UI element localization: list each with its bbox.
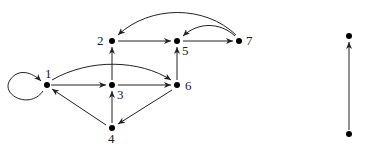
edge-7-2 [118, 13, 236, 36]
node-label-5: 5 [182, 43, 189, 58]
edge-6-4 [118, 90, 172, 124]
node-2 [109, 38, 115, 44]
node-5 [174, 38, 180, 44]
node-label-3: 3 [117, 87, 124, 102]
edge-1-1 [8, 73, 43, 100]
node-label-2: 2 [97, 33, 104, 48]
node-label-7: 7 [246, 33, 253, 48]
node-1 [44, 82, 50, 88]
node-7 [236, 38, 242, 44]
right-graph [346, 33, 352, 137]
node-label-6: 6 [185, 78, 192, 93]
edge-4-1 [52, 89, 106, 125]
left-graph: 1 2 3 4 5 6 7 [8, 13, 253, 147]
node-label-4: 4 [108, 131, 115, 146]
node-bottom [346, 131, 352, 137]
node-6 [174, 82, 180, 88]
node-label-1: 1 [45, 66, 52, 81]
node-top [346, 33, 352, 39]
node-3 [109, 82, 115, 88]
graph-canvas: 1 2 3 4 5 6 7 [0, 0, 367, 147]
edge-7-5 [183, 26, 235, 37]
